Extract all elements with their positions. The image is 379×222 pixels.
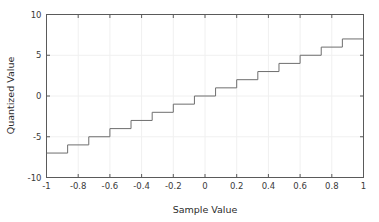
x-tick-label: -0.6 [102, 181, 119, 191]
x-tick-label: -1 [42, 181, 50, 191]
x-tick-label: 0.4 [262, 181, 276, 191]
x-tick-label: 0.2 [230, 181, 244, 191]
y-tick-label: -10 [28, 173, 42, 183]
y-axis-title: Quantized Value [5, 57, 16, 135]
x-tick-label: 0.8 [325, 181, 339, 191]
chart-figure: -1-0.8-0.6-0.4-0.200.20.40.60.81 -10-505… [0, 0, 379, 222]
y-tick-label: 0 [36, 91, 41, 101]
x-axis-title: Sample Value [173, 204, 238, 215]
x-tick-label: 0 [202, 181, 207, 191]
y-tick-label: -5 [33, 132, 41, 142]
y-tick-label: 5 [36, 50, 41, 60]
y-tick-label: 10 [31, 10, 42, 20]
chart-background [0, 0, 379, 222]
x-tick-label: -0.8 [70, 181, 87, 191]
quantizer-staircase-chart: -1-0.8-0.6-0.4-0.200.20.40.60.81 -10-505… [0, 0, 379, 222]
x-tick-label: 1 [361, 181, 366, 191]
x-tick-label: -0.2 [165, 181, 182, 191]
x-tick-label: -0.4 [133, 181, 150, 191]
x-tick-label: 0.6 [293, 181, 307, 191]
